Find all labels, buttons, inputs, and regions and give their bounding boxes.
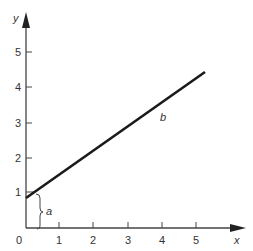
y-axis-arrow-icon: [22, 12, 30, 28]
y-tick-label-1: 1: [15, 186, 21, 198]
line-b: [26, 72, 205, 198]
y-tick-label-2: 2: [15, 152, 21, 164]
y-tick-label-5: 5: [15, 46, 21, 58]
line-label-b: b: [160, 111, 166, 123]
x-axis-arrow-icon: [230, 224, 246, 232]
x-axis-label: x: [233, 234, 240, 246]
x-tick-label-1: 1: [56, 234, 62, 246]
y-tick-label-3: 3: [15, 117, 21, 129]
x-ticks: [59, 222, 196, 228]
origin-label: 0: [16, 234, 22, 246]
y-tick-label-4: 4: [15, 81, 21, 93]
linear-function-diagram: y x 0 1 2 3 4 5 1 2 3 4 5 a b: [0, 0, 253, 251]
intercept-label-a: a: [46, 205, 52, 217]
y-axis-label: y: [12, 12, 20, 24]
x-tick-label-2: 2: [90, 234, 96, 246]
x-tick-label-4: 4: [159, 234, 165, 246]
x-tick-label-3: 3: [125, 234, 131, 246]
x-tick-label-5: 5: [193, 234, 199, 246]
brace-a-icon: [36, 194, 43, 229]
y-ticks: [26, 52, 34, 192]
